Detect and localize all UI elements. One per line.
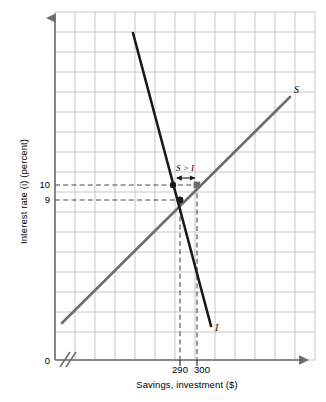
savings-curve (62, 97, 290, 323)
y-axis-title: Interest rate (i) (percent) (18, 107, 29, 277)
chart-gridlines (55, 12, 315, 360)
equilibrium-point (177, 197, 184, 204)
chart-axes (55, 18, 308, 360)
investment-curve-label: I (215, 322, 218, 333)
savings-curve-label: S (294, 84, 299, 95)
savings-point-at-10 (194, 182, 201, 189)
x-axis-title: Savings, investment ($) (58, 379, 316, 390)
investment-curve (133, 33, 211, 326)
y-tick-label-9: 9 (28, 194, 50, 205)
y-tick-label-0: 0 (28, 355, 50, 366)
surplus-annotation-label: S > I (176, 163, 194, 173)
y-tick-label-10: 10 (28, 179, 50, 190)
savings-investment-chart: Interest rate (i) (percent) Savings, inv… (0, 0, 326, 402)
x-tick-label-300: 300 (188, 364, 216, 375)
investment-point-at-10 (170, 182, 176, 188)
